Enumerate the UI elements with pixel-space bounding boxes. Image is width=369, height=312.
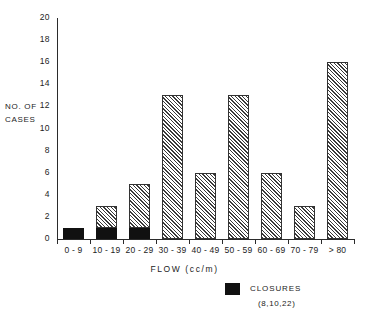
y-tick-label: 2 (28, 212, 50, 222)
x-tick-label: 50 - 59 (222, 245, 255, 255)
bar-segment-closures (96, 228, 116, 239)
x-tick-label: 40 - 49 (189, 245, 222, 255)
y-tick-label: 8 (28, 146, 50, 156)
legend-swatch-closures (225, 283, 240, 295)
y-tick-label-text: 8 (28, 146, 50, 155)
x-tick-label: 60 - 69 (255, 245, 288, 255)
x-tick-mark (255, 239, 256, 244)
legend-label-closures: CLOSURES (250, 284, 301, 293)
x-tick-mark (90, 239, 91, 244)
y-tick-label-text: 4 (28, 190, 50, 199)
bar (96, 206, 116, 239)
y-tick-label: 12 (28, 101, 50, 111)
bar (195, 173, 215, 239)
x-tick-label: 20 - 29 (123, 245, 156, 255)
bar-segment-closures (129, 228, 149, 239)
bar-segment-cases (195, 173, 215, 239)
x-tick-label: 0 - 9 (57, 245, 90, 255)
bar (327, 62, 347, 239)
x-tick-mark (222, 239, 223, 244)
bar (63, 228, 83, 239)
x-tick-label: 30 - 39 (156, 245, 189, 255)
bar (162, 95, 182, 239)
bar (294, 206, 314, 239)
x-axis-line (57, 239, 354, 240)
bar-segment-cases (96, 206, 116, 228)
y-tick-label: 14 (28, 79, 50, 89)
bar-segment-cases (261, 173, 281, 239)
plot-area (57, 18, 354, 239)
x-tick-mark (288, 239, 289, 244)
x-tick-mark (123, 239, 124, 244)
x-axis-title: FLOW (cc/m) (0, 264, 369, 274)
x-tick-mark (57, 239, 58, 244)
y-tick-label-text: 16 (28, 57, 50, 66)
y-tick-label-text: 20 (28, 13, 50, 22)
bar (228, 95, 248, 239)
x-tick-mark (189, 239, 190, 244)
bar-segment-cases (129, 184, 149, 228)
x-tick-mark (321, 239, 322, 244)
x-tick-mark (354, 239, 355, 244)
y-tick-label: 16 (28, 57, 50, 67)
y-tick-label: 4 (28, 190, 50, 200)
bar-segment-cases (294, 206, 314, 239)
bar-segment-cases (162, 95, 182, 239)
x-tick-label: > 80 (321, 245, 354, 255)
bar-segment-closures (63, 228, 83, 239)
x-tick-mark (156, 239, 157, 244)
bar-chart: NO. OF CASES 02468101214161820 0 - 910 -… (0, 0, 369, 312)
y-tick-label: 0 (28, 234, 50, 244)
y-tick-label-text: 18 (28, 35, 50, 44)
y-tick-label: 6 (28, 168, 50, 178)
legend-sublabel-closures: (8,10,22) (258, 299, 295, 308)
x-tick-label: 10 - 19 (90, 245, 123, 255)
y-tick-label: 10 (28, 124, 50, 134)
y-tick-label-text: 12 (28, 101, 50, 110)
y-tick-label-text: 10 (28, 124, 50, 133)
y-tick-label-text: 6 (28, 168, 50, 177)
y-tick-label: 20 (28, 13, 50, 23)
y-tick-label-text: 14 (28, 79, 50, 88)
bar-segment-cases (327, 62, 347, 239)
x-tick-label: 70 - 79 (288, 245, 321, 255)
bar (261, 173, 281, 239)
y-tick-label: 18 (28, 35, 50, 45)
bar-segment-cases (228, 95, 248, 239)
y-tick-label-text: 0 (28, 234, 50, 243)
bar (129, 184, 149, 239)
y-tick-label-text: 2 (28, 212, 50, 221)
